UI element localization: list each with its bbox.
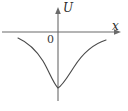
origin-label: 0: [47, 34, 54, 45]
plot-canvas: [0, 0, 128, 111]
u-axis-arrowhead: [55, 7, 61, 14]
u-axis-label: U: [63, 2, 73, 14]
x-axis-label: x: [112, 20, 119, 32]
potential-well-curve: [18, 38, 106, 88]
potential-well-figure: U x 0: [0, 0, 128, 111]
